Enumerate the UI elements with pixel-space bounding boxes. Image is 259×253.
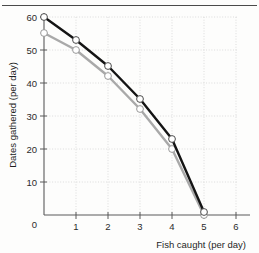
xtick-label-6: 6	[233, 221, 238, 232]
lower-point-3	[137, 106, 144, 113]
xtick-label-4: 4	[169, 221, 174, 232]
lower-point-1	[73, 47, 80, 54]
ytick-label-10: 10	[26, 177, 37, 188]
upper-point-1	[73, 37, 80, 44]
upper-point-3	[137, 96, 144, 103]
xtick-label-3: 3	[137, 221, 142, 232]
ytick-label-60: 60	[26, 12, 37, 23]
chart-figure: 60 50 40 30 20 10 0 1 2 3 4 5 6	[0, 0, 259, 253]
y-tick-labels: 60 50 40 30 20 10 0	[26, 12, 37, 230]
ytick-label-20: 20	[26, 144, 37, 155]
ytick-label-30: 30	[26, 111, 37, 122]
upper-point-2	[105, 63, 112, 70]
lower-point-2	[105, 73, 112, 80]
xtick-label-5: 5	[201, 221, 206, 232]
x-tick-labels: 1 2 3 4 5 6	[73, 221, 238, 232]
lower-point-0	[41, 30, 48, 37]
gridlines	[44, 17, 237, 215]
ytick-label-50: 50	[26, 45, 37, 56]
upper-point-4	[169, 136, 176, 143]
upper-point-5	[201, 209, 208, 216]
ytick-label-40: 40	[26, 78, 37, 89]
xtick-label-1: 1	[73, 221, 78, 232]
x-axis-title: Fish caught (per day)	[156, 239, 246, 250]
y-axis-title: Dates gathered (per day)	[7, 62, 18, 168]
series-lower-curve	[41, 30, 208, 219]
ytick-label-0: 0	[32, 219, 37, 230]
chart-canvas: 60 50 40 30 20 10 0 1 2 3 4 5 6	[0, 0, 259, 253]
xtick-label-2: 2	[105, 221, 110, 232]
lower-curve-path	[44, 33, 204, 215]
upper-point-0	[41, 14, 48, 21]
